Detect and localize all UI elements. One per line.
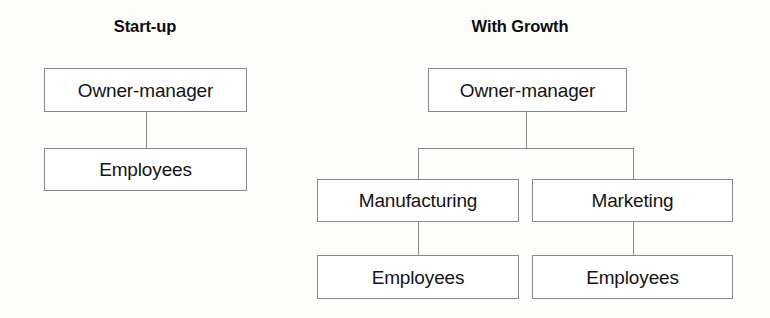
connector-manufacturing-to-employees [418,222,419,255]
node-growth-owner-manager[interactable]: Owner-manager [428,68,627,112]
node-label-startup-owner-manager: Owner-manager [78,81,213,100]
panel-title-with-growth: With Growth [472,17,569,36]
node-growth-employees-manufacturing[interactable]: Employees [317,255,519,299]
node-label-growth-owner-manager: Owner-manager [460,81,595,100]
connector-growth-to-marketing [633,148,634,179]
node-growth-marketing[interactable]: Marketing [532,179,733,222]
org-chart-diagram: Start-up Owner-manager Employees With Gr… [0,0,770,318]
connector-marketing-to-employees [633,222,634,255]
node-label-growth-employees-marketing: Employees [586,268,679,287]
node-label-growth-employees-manufacturing: Employees [372,268,465,287]
node-growth-employees-marketing[interactable]: Employees [532,255,733,299]
node-startup-employees[interactable]: Employees [44,148,247,191]
connector-startup-owner-to-employees [146,112,147,148]
connector-growth-split-bar [418,148,634,149]
node-label-startup-employees: Employees [99,160,192,179]
node-startup-owner-manager[interactable]: Owner-manager [44,68,247,112]
connector-growth-to-manufacturing [418,148,419,179]
connector-growth-owner-stem [526,112,527,149]
node-label-growth-marketing: Marketing [591,191,673,210]
panel-title-startup: Start-up [114,17,176,36]
node-growth-manufacturing[interactable]: Manufacturing [317,179,519,222]
node-label-growth-manufacturing: Manufacturing [359,191,477,210]
